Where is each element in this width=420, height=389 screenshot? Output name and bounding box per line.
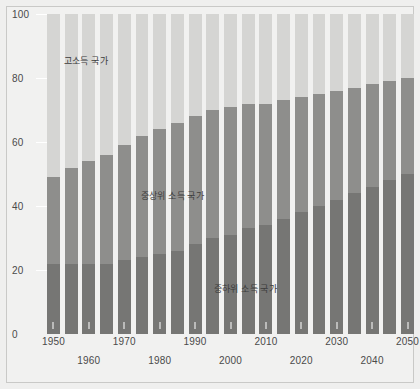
x-tick-mark <box>195 322 196 329</box>
bar-segment <box>136 14 149 136</box>
bar-segment <box>82 161 95 263</box>
bar-segment <box>136 257 149 334</box>
bar[interactable] <box>189 14 202 334</box>
bar[interactable] <box>259 14 272 334</box>
bar[interactable] <box>366 14 379 334</box>
y-tick-label: 0 <box>6 329 47 340</box>
bar[interactable] <box>277 14 290 334</box>
bar[interactable] <box>313 14 326 334</box>
bar-segment <box>383 14 396 81</box>
x-tick-mark <box>88 322 89 329</box>
bar-segment <box>65 168 78 264</box>
bar[interactable] <box>242 14 255 334</box>
bar-segment <box>206 238 219 334</box>
bar[interactable] <box>100 14 113 334</box>
x-tick-label: 1990 <box>184 336 207 347</box>
x-tick-mark <box>407 322 408 329</box>
bar-segment <box>206 110 219 238</box>
bar[interactable] <box>224 14 237 334</box>
bar[interactable] <box>383 14 396 334</box>
x-tick-mark <box>301 322 302 329</box>
bar-segment <box>100 155 113 264</box>
bar[interactable] <box>118 14 131 334</box>
bar[interactable] <box>47 14 60 334</box>
bar-segment <box>259 14 272 104</box>
x-tick-label: 1960 <box>77 355 100 366</box>
x-tick-label: 2050 <box>396 336 419 347</box>
bar-segment <box>100 264 113 334</box>
bar-segment <box>313 14 326 94</box>
bar-segment <box>224 107 237 235</box>
bar-segment <box>242 228 255 334</box>
bar-segment <box>383 81 396 180</box>
bar-segment <box>189 14 202 116</box>
bar-segment <box>277 100 290 218</box>
bar[interactable] <box>136 14 149 334</box>
bar-segment <box>153 129 166 254</box>
x-tick-label: 1950 <box>42 336 65 347</box>
bar-segment <box>189 244 202 334</box>
x-tick-label: 2030 <box>325 336 348 347</box>
y-tick-label: 20 <box>6 265 47 276</box>
y-axis: 020406080100 <box>6 14 47 334</box>
bar-segment <box>65 264 78 334</box>
x-tick-label: 2010 <box>254 336 277 347</box>
y-tick-label: 40 <box>6 201 47 212</box>
bar-segment <box>366 187 379 334</box>
bar-segment <box>313 206 326 334</box>
bar-segment <box>401 174 414 334</box>
bar-segment <box>82 14 95 161</box>
bar-segment <box>100 14 113 155</box>
y-tick-label: 60 <box>6 137 47 148</box>
bar-segment <box>189 116 202 244</box>
bar-segment <box>348 88 361 194</box>
bar[interactable] <box>330 14 343 334</box>
bar-segment <box>366 84 379 186</box>
bar[interactable] <box>348 14 361 334</box>
plot-area <box>47 14 414 334</box>
bar-segment <box>171 14 184 123</box>
bar-segment <box>136 136 149 258</box>
bar-segment <box>277 219 290 334</box>
bar[interactable] <box>65 14 78 334</box>
bar-segment <box>171 251 184 334</box>
bar-segment <box>259 104 272 226</box>
bar[interactable] <box>401 14 414 334</box>
bar[interactable] <box>206 14 219 334</box>
bar-segment <box>330 200 343 334</box>
bar-segment <box>277 14 290 100</box>
bar-segment <box>206 14 219 110</box>
y-tick-label: 100 <box>6 9 47 20</box>
x-tick-mark <box>159 322 160 329</box>
bar-segment <box>224 235 237 334</box>
x-tick-mark <box>124 322 125 329</box>
bar-segment <box>224 14 237 107</box>
bar-segment <box>295 14 308 97</box>
bar-segment <box>242 14 255 104</box>
bar[interactable] <box>82 14 95 334</box>
x-tick-mark <box>230 322 231 329</box>
bar-segment <box>401 78 414 174</box>
x-tick-label: 2020 <box>290 355 313 366</box>
x-tick-mark <box>265 322 266 329</box>
bar-group <box>47 14 414 334</box>
bar[interactable] <box>171 14 184 334</box>
x-tick-label: 1980 <box>148 355 171 366</box>
bar-segment <box>118 14 131 145</box>
x-tick-label: 1970 <box>113 336 136 347</box>
bar-segment <box>330 14 343 91</box>
bar-segment <box>295 212 308 334</box>
bar-segment <box>153 14 166 129</box>
bar-segment <box>366 14 379 84</box>
bar[interactable] <box>153 14 166 334</box>
bar-segment <box>348 14 361 88</box>
stacked-bar-chart: 020406080100 고소득 국가 중상위 소득 국가 중하위 소득 국가 … <box>0 0 420 389</box>
bar-segment <box>348 193 361 334</box>
bar[interactable] <box>295 14 308 334</box>
x-axis: 1950196019701980199020002010202020302040… <box>47 328 414 383</box>
bar-segment <box>242 104 255 229</box>
y-tick-label: 80 <box>6 73 47 84</box>
bar-segment <box>295 97 308 212</box>
bar-segment <box>383 180 396 334</box>
bar-segment <box>47 177 60 263</box>
